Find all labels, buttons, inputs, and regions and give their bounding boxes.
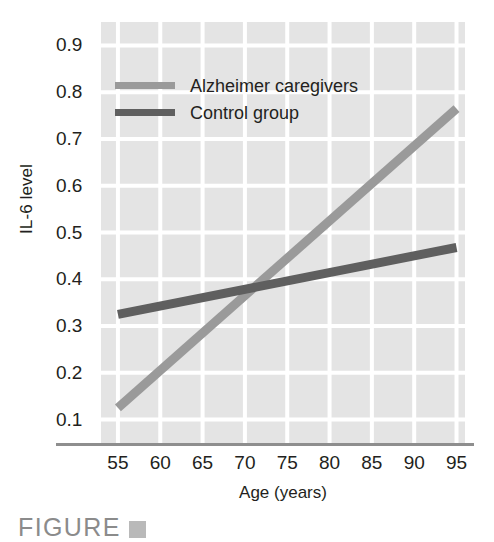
chart-legend: Alzheimer caregiversControl group bbox=[115, 72, 415, 126]
y-tick-label: 0.9 bbox=[56, 33, 102, 57]
y-axis-tick-labels: 0.10.20.30.40.50.60.70.80.9 bbox=[56, 22, 102, 443]
plot-area: Alzheimer caregiversControl group bbox=[101, 22, 465, 443]
legend-swatch-icon bbox=[115, 82, 175, 89]
x-tick-label: 95 bbox=[434, 449, 480, 477]
y-axis-title: IL-6 level bbox=[15, 139, 39, 259]
x-tick-label: 60 bbox=[137, 449, 183, 477]
x-tick-label: 85 bbox=[349, 449, 395, 477]
x-axis-title: Age (years) bbox=[101, 481, 465, 505]
x-axis-tick-labels: 556065707580859095 bbox=[101, 449, 465, 477]
y-tick-label: 0.1 bbox=[56, 408, 102, 432]
figure-number-marker bbox=[129, 521, 146, 538]
x-tick-label: 90 bbox=[391, 449, 437, 477]
y-tick-label: 0.6 bbox=[56, 174, 102, 198]
x-tick-label: 70 bbox=[222, 449, 268, 477]
x-tick-label: 80 bbox=[307, 449, 353, 477]
legend-swatch-icon bbox=[115, 109, 175, 116]
y-tick-label: 0.2 bbox=[56, 361, 102, 385]
y-tick-label: 0.3 bbox=[56, 314, 102, 338]
x-tick-label: 75 bbox=[264, 449, 310, 477]
x-tick-label: 65 bbox=[180, 449, 226, 477]
figure-caption-text: FIGURE bbox=[18, 513, 121, 541]
y-tick-label: 0.8 bbox=[56, 80, 102, 104]
legend-label: Control group bbox=[190, 103, 299, 123]
x-axis-line bbox=[56, 443, 474, 446]
y-tick-label: 0.7 bbox=[56, 127, 102, 151]
y-tick-label: 0.4 bbox=[56, 267, 102, 291]
y-tick-label: 0.5 bbox=[56, 221, 102, 245]
figure-caption: FIGURE bbox=[18, 513, 146, 542]
legend-label: Alzheimer caregivers bbox=[190, 76, 358, 96]
legend-item: Control group bbox=[115, 99, 415, 126]
x-tick-label: 55 bbox=[95, 449, 141, 477]
legend-item: Alzheimer caregivers bbox=[115, 72, 415, 99]
